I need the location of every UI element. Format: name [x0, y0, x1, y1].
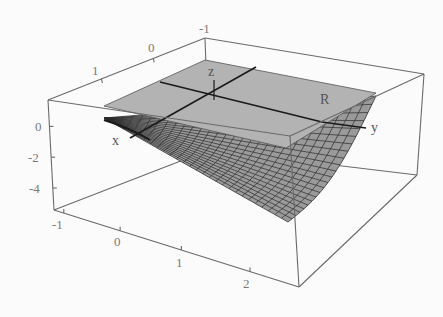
surface-plot: -1 0 1 0 -2 -4 -1 0 1 2 x y z R [0, 0, 443, 317]
box-edge [417, 74, 424, 175]
plane-label: R [320, 92, 330, 107]
top-tick-label: 0 [148, 40, 155, 55]
top-tick-label: 1 [92, 63, 99, 78]
x-tick-label: -1 [52, 217, 63, 232]
y-axis-label: y [371, 120, 378, 135]
z-tick-label: 0 [35, 119, 42, 134]
tick-mark [153, 58, 154, 62]
z-tick-label: -2 [28, 150, 39, 165]
x-tick-label: 2 [243, 276, 250, 291]
x-tick-label: 1 [176, 255, 183, 270]
top-tick-label: -1 [199, 21, 210, 36]
x-tick-label: 0 [114, 234, 121, 249]
tick-mark [101, 79, 102, 83]
x-axis-label: x [112, 133, 119, 148]
z-tick-label: -4 [29, 181, 40, 196]
box-edge [48, 100, 54, 210]
box-edge [54, 210, 299, 287]
z-axis-label: z [208, 64, 214, 79]
